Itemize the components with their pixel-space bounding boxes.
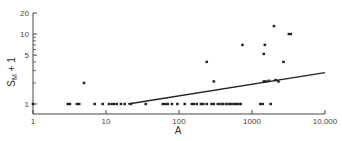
data-point <box>265 80 268 82</box>
data-point <box>171 103 174 105</box>
data-point <box>123 103 126 105</box>
data-point <box>176 103 179 105</box>
x-axis: 110100100010,000 <box>31 110 338 126</box>
y-tick-label: 5 <box>25 51 30 60</box>
y-axis: 151020 <box>20 9 37 114</box>
regression-line <box>128 73 325 104</box>
data-point <box>259 103 262 105</box>
data-point <box>225 103 228 105</box>
data-point <box>273 25 276 27</box>
data-point <box>144 103 147 105</box>
y-axis-title: SM + 1 <box>6 57 18 87</box>
data-point <box>277 80 280 82</box>
data-point <box>200 103 203 105</box>
data-point <box>164 103 167 105</box>
data-point <box>193 103 196 105</box>
data-point <box>237 103 240 105</box>
x-axis-title: A <box>175 125 182 136</box>
data-point <box>202 103 205 105</box>
data-point <box>213 80 216 82</box>
data-point <box>289 33 292 35</box>
data-point <box>130 103 133 105</box>
data-point <box>262 53 265 55</box>
data-point <box>282 61 285 63</box>
data-point <box>113 103 116 105</box>
data-point <box>110 103 113 105</box>
data-point <box>261 103 264 105</box>
data-point <box>120 103 123 105</box>
data-point <box>268 80 271 82</box>
x-tick-label: 10,000 <box>313 117 338 126</box>
data-point <box>83 82 86 84</box>
data-point <box>101 103 104 105</box>
data-point <box>162 103 165 105</box>
data-point <box>205 61 208 63</box>
data-point <box>76 103 79 105</box>
x-tick-label: 1000 <box>243 117 261 126</box>
data-point <box>264 44 267 46</box>
data-point <box>93 103 96 105</box>
data-point <box>216 103 219 105</box>
data-point <box>241 44 244 46</box>
data-point <box>227 103 230 105</box>
trend-line <box>128 73 325 104</box>
data-point <box>274 79 277 81</box>
data-point <box>69 103 72 105</box>
x-tick-label: 1 <box>31 117 36 126</box>
scatter-chart: 151020 110100100010,000 A SM + 1 <box>0 0 342 141</box>
data-point <box>166 103 169 105</box>
data-point <box>222 103 225 105</box>
data-point <box>269 103 272 105</box>
data-point <box>108 103 111 105</box>
data-point <box>205 103 208 105</box>
data-point <box>213 103 216 105</box>
y-tick-label: 10 <box>20 30 29 39</box>
data-point <box>239 103 242 105</box>
data-point <box>219 103 222 105</box>
svg-text:SM + 1: SM + 1 <box>6 57 18 87</box>
data-point <box>78 103 81 105</box>
data-points <box>32 25 292 105</box>
data-point <box>32 103 35 105</box>
data-point <box>115 103 118 105</box>
data-point <box>195 103 198 105</box>
y-axis-title-suffix: + 1 <box>6 57 17 74</box>
y-tick-label: 20 <box>20 9 29 18</box>
data-point <box>230 103 233 105</box>
y-tick-label: 1 <box>25 100 30 109</box>
data-point <box>235 103 238 105</box>
data-point <box>183 103 186 105</box>
x-tick-label: 10 <box>102 117 111 126</box>
